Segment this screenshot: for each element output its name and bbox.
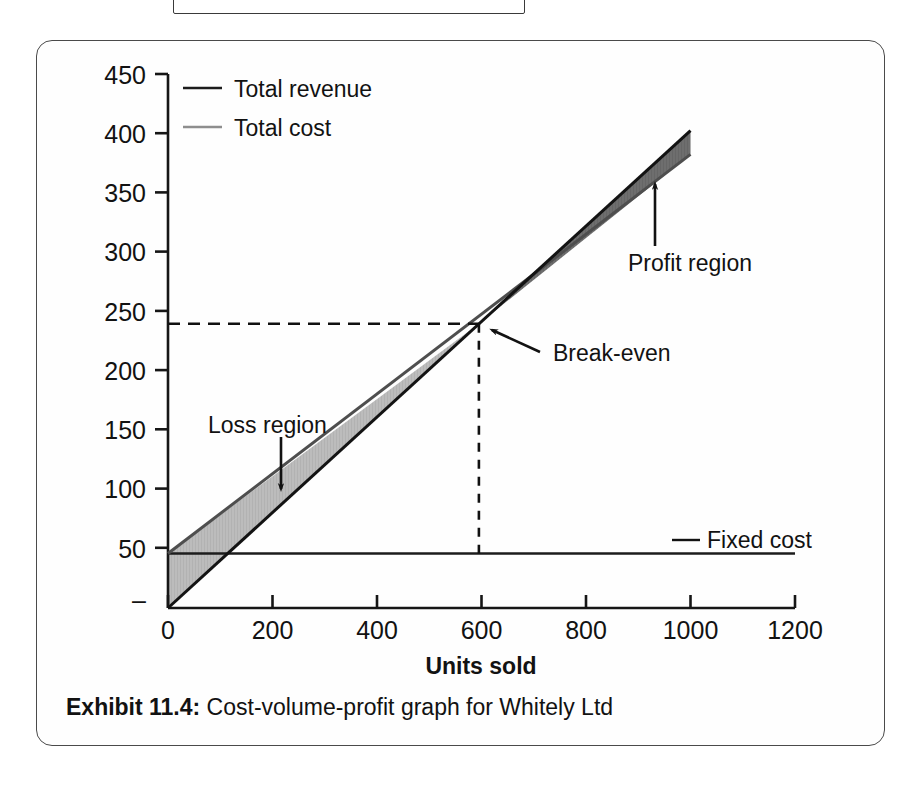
figure-caption: Exhibit 11.4: Cost-volume-profit graph f… [66, 694, 826, 721]
x-tick-label: 1000 [646, 616, 736, 645]
y-tick-label: 100 [68, 475, 146, 504]
y-tick-label: 250 [68, 298, 146, 327]
x-tick-label: 0 [123, 616, 213, 645]
legend-label-total-revenue: Total revenue [234, 76, 372, 103]
y-tick-label: 150 [68, 416, 146, 445]
y-tick-label: 400 [68, 120, 146, 149]
caption-label: Exhibit 11.4: [66, 694, 200, 720]
annotation-loss-region: Loss region [208, 412, 327, 439]
y-tick-label: 300 [68, 238, 146, 267]
legend-label-total-cost: Total cost [234, 115, 331, 142]
y-tick-label-zero: – [68, 586, 146, 615]
annotation-fixed-cost: Fixed cost [707, 527, 812, 554]
x-tick-label: 400 [332, 616, 422, 645]
annotation-profit-region: Profit region [628, 250, 752, 277]
caption-text: Cost-volume-profit graph for Whitely Ltd [207, 694, 614, 720]
y-tick-label: 50 [68, 535, 146, 564]
x-tick-label: 200 [228, 616, 318, 645]
scan-artifact-box [173, 0, 525, 14]
x-tick-label: 600 [437, 616, 527, 645]
annotation-break-even: Break-even [553, 340, 671, 367]
y-tick-label: 450 [68, 61, 146, 90]
x-tick-label: 800 [541, 616, 631, 645]
y-tick-label: 200 [68, 357, 146, 386]
x-tick-label: 1200 [750, 616, 840, 645]
y-tick-label: 350 [68, 179, 146, 208]
x-axis-title: Units sold [331, 653, 631, 680]
